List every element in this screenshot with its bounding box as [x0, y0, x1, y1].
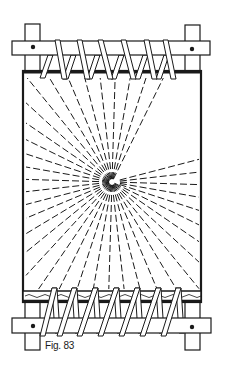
bottom-left-peg-icon	[31, 324, 35, 328]
figure-caption: Fig. 83	[45, 340, 74, 351]
top-crossbar	[12, 41, 210, 55]
top-right-peg-icon	[190, 47, 194, 51]
bottom-right-peg-icon	[190, 325, 194, 329]
top-left-peg-icon	[31, 45, 35, 49]
loom-frame-diagram	[0, 0, 227, 369]
